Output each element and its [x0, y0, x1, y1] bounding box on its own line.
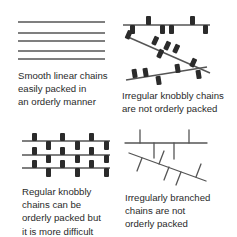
- caption-regular-knobbly: Regular knobbly chains can be orderly pa…: [22, 185, 101, 237]
- knob: [163, 41, 171, 51]
- knob: [32, 160, 37, 168]
- knob: [151, 36, 159, 46]
- knob: [190, 16, 195, 25]
- knob: [75, 168, 80, 177]
- knob: [195, 70, 201, 80]
- knob: [46, 168, 51, 177]
- knob: [60, 147, 65, 155]
- knob: [146, 16, 151, 25]
- knob: [32, 147, 37, 155]
- panel-regular-knobbly-chains: Regular knobbly chains can be orderly pa…: [0, 118, 118, 237]
- caption-irregular-knobbly: Irregular knobbly chains are not orderly…: [122, 89, 224, 115]
- knob: [60, 133, 65, 141]
- knob: [160, 25, 165, 34]
- chain-line: [126, 67, 207, 80]
- knob: [89, 133, 94, 141]
- knob: [46, 141, 51, 150]
- knob: [142, 68, 148, 78]
- knob: [169, 25, 174, 34]
- knob: [104, 155, 109, 163]
- knob: [75, 155, 80, 163]
- knob: [104, 141, 109, 150]
- knob: [203, 25, 208, 34]
- chain-line: [129, 153, 206, 181]
- branch: [159, 151, 164, 164]
- panel-irregular-knobbly-chains: Irregular knobbly chains are not orderly…: [118, 0, 237, 118]
- panel-irregularly-branched-chains: Irregularly branched chains are not orde…: [118, 118, 237, 237]
- knob: [89, 160, 94, 168]
- branch: [176, 172, 181, 185]
- knob: [172, 44, 180, 54]
- knob: [89, 147, 94, 155]
- knob: [75, 141, 80, 150]
- panel-smooth-linear-chains: Smooth linear chains easily packed in an…: [0, 0, 118, 118]
- branch: [196, 164, 201, 177]
- branch: [137, 158, 142, 171]
- knob: [155, 76, 161, 86]
- knob: [46, 155, 51, 163]
- knob: [60, 160, 65, 168]
- caption-irregularly-branched: Irregularly branched chains are not orde…: [125, 191, 210, 231]
- branch: [164, 167, 169, 180]
- caption-smooth-linear: Smooth linear chains easily packed in an…: [18, 69, 108, 109]
- knob: [104, 168, 109, 177]
- knob: [32, 133, 37, 141]
- knob: [131, 69, 137, 79]
